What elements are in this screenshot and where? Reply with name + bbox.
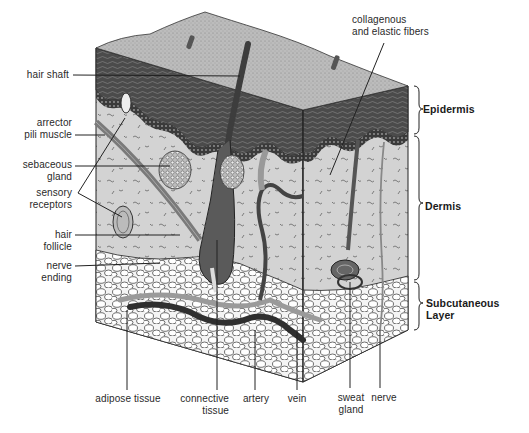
- meissner-corpuscle: [121, 93, 131, 113]
- label-adipose-tissue: adipose tissue: [90, 393, 166, 405]
- label-subcutaneous-layer: Subcutaneous Layer: [426, 297, 500, 321]
- label-sebaceous-gland: sebaceous gland: [4, 159, 72, 183]
- label-collagenous-fibers: collagenous and elastic fibers: [352, 14, 429, 38]
- adipose-right: [303, 276, 408, 382]
- label-dermis: Dermis: [425, 200, 461, 212]
- label-artery: artery: [236, 393, 276, 405]
- label-arrector-pili-muscle: arrector pili muscle: [4, 117, 72, 141]
- layer-braces: [414, 86, 423, 330]
- sweat-gland: [331, 260, 359, 280]
- label-sweat-gland: sweat gland: [333, 392, 369, 416]
- skin-diagram: hair shaft arrector pili muscle sebaceou…: [0, 0, 529, 433]
- label-nerve: nerve: [366, 392, 402, 404]
- sebaceous-gland-right: [220, 155, 244, 189]
- skin-block-illustration: [0, 0, 529, 433]
- label-epidermis: Epidermis: [423, 103, 475, 115]
- label-sensory-receptors: sensory receptors: [4, 187, 72, 211]
- label-hair-shaft: hair shaft: [4, 69, 69, 81]
- label-connective-tissue: connective tissue: [172, 393, 229, 417]
- label-hair-follicle: hair follicle: [4, 229, 72, 253]
- label-vein: vein: [280, 393, 314, 405]
- label-nerve-ending: nerve ending: [4, 260, 72, 284]
- sebaceous-gland-left: [159, 151, 191, 189]
